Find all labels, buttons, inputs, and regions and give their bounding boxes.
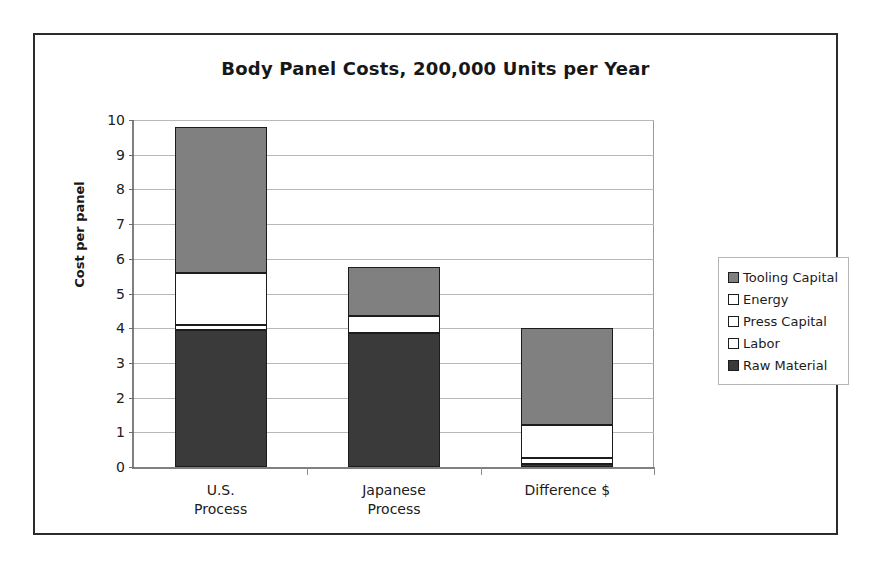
legend-item-label: Raw Material: [743, 358, 827, 373]
bar-segment-tooling-capital[interactable]: [348, 267, 440, 316]
y-axis-tick-label: 1: [116, 424, 125, 440]
stacked-bar[interactable]: [175, 127, 267, 467]
bar-segment-tooling-capital[interactable]: [521, 328, 613, 425]
y-axis-tick: [129, 328, 134, 329]
chart-legend: Tooling CapitalEnergyPress CapitalLaborR…: [718, 257, 849, 385]
y-axis-tick: [129, 120, 134, 121]
y-axis-tick: [129, 189, 134, 190]
legend-item[interactable]: Press Capital: [728, 310, 841, 332]
legend-item-label: Tooling Capital: [743, 270, 838, 285]
y-axis-tick-label: 4: [116, 320, 125, 336]
y-axis-tick-label: 7: [116, 216, 125, 232]
bar-segment-raw-material[interactable]: [175, 330, 267, 467]
legend-swatch-icon: [728, 316, 739, 327]
y-axis-tick-label: 8: [116, 181, 125, 197]
plot-area: 012345678910 U.S. ProcessJapanese Proces…: [132, 120, 654, 469]
chart-title: Body Panel Costs, 200,000 Units per Year: [35, 58, 836, 79]
y-axis-tick: [129, 259, 134, 260]
x-axis-category-label: Difference $: [525, 481, 611, 500]
gridline: [134, 120, 654, 121]
x-axis-category-label: Japanese Process: [362, 481, 426, 519]
legend-item[interactable]: Energy: [728, 288, 841, 310]
y-axis-tick-label: 6: [116, 251, 125, 267]
bar-segment-labor[interactable]: [175, 325, 267, 330]
bar-segment-tooling-capital[interactable]: [175, 127, 267, 273]
y-axis-tick: [129, 224, 134, 225]
y-axis-tick-label: 0: [116, 459, 125, 475]
x-axis-tick: [481, 467, 482, 475]
legend-item-label: Energy: [743, 292, 789, 307]
bar-segment-energy[interactable]: [175, 273, 267, 325]
y-axis-tick: [129, 294, 134, 295]
legend-item-label: Labor: [743, 336, 780, 351]
y-axis-tick: [129, 398, 134, 399]
stacked-bar[interactable]: [348, 267, 440, 467]
y-axis-title: Cost per panel: [72, 155, 87, 315]
y-axis-tick: [129, 155, 134, 156]
y-axis-tick-label: 3: [116, 355, 125, 371]
legend-swatch-icon: [728, 294, 739, 305]
legend-swatch-icon: [728, 272, 739, 283]
bar-segment-raw-material[interactable]: [521, 464, 613, 467]
legend-swatch-icon: [728, 338, 739, 349]
chart-frame: Body Panel Costs, 200,000 Units per Year…: [33, 33, 838, 535]
stacked-bar[interactable]: [521, 328, 613, 467]
bar-segment-energy[interactable]: [521, 425, 613, 458]
y-axis-tick: [129, 363, 134, 364]
bar-segment-energy[interactable]: [348, 316, 440, 333]
y-axis-tick: [129, 467, 134, 468]
legend-item-label: Press Capital: [743, 314, 827, 329]
legend-swatch-icon: [728, 360, 739, 371]
y-axis-tick-label: 5: [116, 286, 125, 302]
legend-item[interactable]: Tooling Capital: [728, 266, 841, 288]
y-axis-tick: [129, 432, 134, 433]
y-axis-tick-label: 9: [116, 147, 125, 163]
bar-segment-raw-material[interactable]: [348, 333, 440, 467]
bar-segment-labor[interactable]: [521, 458, 613, 463]
legend-item[interactable]: Labor: [728, 332, 841, 354]
y-axis-tick-label: 10: [107, 112, 125, 128]
x-axis-tick: [654, 467, 655, 475]
y-axis-tick-label: 2: [116, 390, 125, 406]
x-axis-tick: [307, 467, 308, 475]
x-axis-category-label: U.S. Process: [194, 481, 247, 519]
legend-item[interactable]: Raw Material: [728, 354, 841, 376]
